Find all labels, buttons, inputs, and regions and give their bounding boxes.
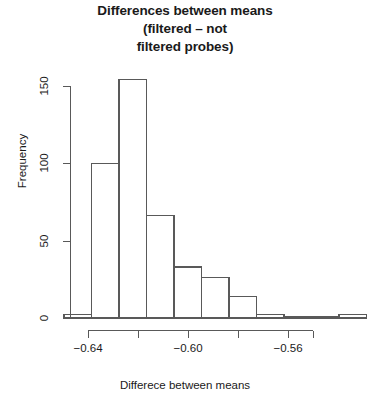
histogram-bar [229, 296, 257, 318]
histogram-bar [174, 267, 202, 318]
histogram-bar [339, 315, 367, 318]
histogram-bar [147, 216, 175, 318]
histogram-bar [312, 317, 340, 318]
histogram-bar [202, 278, 230, 318]
histogram-bar [284, 317, 312, 318]
histogram-plot: Differences between means (filtered – no… [0, 0, 370, 398]
histogram-bar [92, 163, 120, 318]
plot-canvas [0, 0, 370, 398]
histogram-bar [64, 315, 92, 318]
histogram-bar [257, 315, 285, 318]
histogram-bar [119, 80, 147, 318]
histogram-bars [64, 80, 367, 318]
